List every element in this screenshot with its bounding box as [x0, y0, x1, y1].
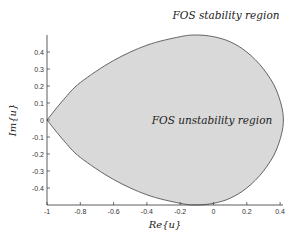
y-tick-label: 0.4: [34, 49, 44, 56]
y-tick-label: -0.3: [32, 168, 44, 175]
x-tick-label: 0: [212, 208, 216, 215]
y-tick-label: 0: [40, 117, 44, 124]
x-axis-ticks: -1-0.8-0.6-0.4-0.200.20.4: [44, 202, 285, 215]
x-tick-label: -1: [44, 208, 50, 215]
x-tick-label: -0.6: [108, 208, 120, 215]
x-tick-label: 0.4: [275, 208, 285, 215]
y-tick-label: 0.2: [34, 83, 44, 90]
y-tick-label: -0.1: [32, 134, 44, 141]
y-tick-label: 0.3: [34, 66, 44, 73]
x-axis-title: Re{u}: [148, 219, 182, 230]
x-tick-label: -0.2: [174, 208, 186, 215]
y-tick-label: -0.4: [32, 185, 44, 192]
unstability-region-label: FOS unstability region: [151, 114, 273, 126]
chart-canvas: -1-0.8-0.6-0.4-0.200.20.4 0.40.30.20.10-…: [0, 0, 300, 240]
y-tick-label: -0.2: [32, 151, 44, 158]
stability-region-label: FOS stability region: [172, 9, 280, 21]
y-tick-label: 0.1: [34, 100, 44, 107]
x-tick-label: 0.2: [242, 208, 252, 215]
y-axis-title: Im{u}: [7, 104, 18, 138]
x-tick-label: -0.8: [74, 208, 86, 215]
x-tick-label: -0.4: [141, 208, 153, 215]
